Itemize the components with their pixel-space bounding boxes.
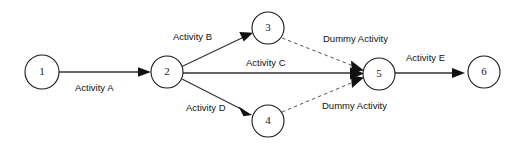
node-6-label: 6 bbox=[481, 65, 487, 77]
edge-label-activity-e: Activity E bbox=[406, 52, 445, 63]
node-1-label: 1 bbox=[39, 65, 45, 77]
edge-dummy-activity-1-arrowhead bbox=[351, 61, 364, 73]
node-6[interactable]: 6 bbox=[468, 56, 500, 88]
edge-label-activity-d: Activity D bbox=[186, 102, 226, 113]
edge-activity-c bbox=[183, 68, 364, 80]
node-3[interactable]: 3 bbox=[252, 12, 284, 44]
edge-activity-e-arrowhead bbox=[452, 68, 465, 78]
edge-activity-d-arrowhead bbox=[239, 107, 253, 117]
edge-label-activity-a: Activity A bbox=[75, 82, 114, 93]
edge-label-activity-b: Activity B bbox=[173, 31, 212, 42]
edge-label-activity-c: Activity C bbox=[246, 57, 286, 68]
edge-label-dummy-activity-1: Dummy Activity bbox=[323, 33, 388, 44]
edge-activity-e bbox=[395, 68, 465, 78]
node-5-label: 5 bbox=[376, 67, 382, 79]
edge-activity-a-arrowhead bbox=[138, 67, 151, 77]
edge-dummy-activity-2-arrowhead bbox=[351, 76, 364, 89]
network-diagram: 1 2 3 4 5 6 Activity A Activity B Activi… bbox=[0, 0, 526, 153]
node-1[interactable]: 1 bbox=[25, 55, 59, 89]
edge-activity-b-arrowhead bbox=[239, 32, 253, 41]
node-2[interactable]: 2 bbox=[151, 56, 183, 88]
edge-label-dummy-activity-2: Dummy Activity bbox=[322, 100, 387, 111]
diagram-canvas: 1 2 3 4 5 6 Activity A Activity B Activi… bbox=[0, 0, 526, 153]
node-5[interactable]: 5 bbox=[363, 58, 395, 90]
edge-activity-a bbox=[59, 67, 151, 77]
node-3-label: 3 bbox=[265, 21, 271, 33]
node-4[interactable]: 4 bbox=[252, 105, 284, 137]
node-4-label: 4 bbox=[265, 114, 271, 126]
node-2-label: 2 bbox=[164, 65, 170, 77]
